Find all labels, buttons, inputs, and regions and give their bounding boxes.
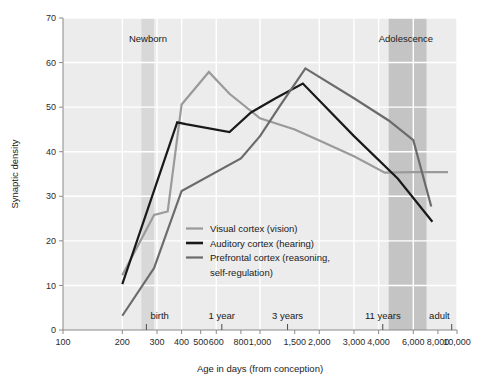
y-tick-label-70: 70 (46, 13, 56, 23)
bottom-annotation-11-years: 11 years (365, 310, 401, 321)
x-tick-label-3000: 3,000 (343, 337, 366, 347)
top-annotation-newborn: Newborn (129, 33, 167, 44)
x-tick-label-2000: 2,000 (308, 337, 331, 347)
x-tick-label-200: 200 (115, 337, 130, 347)
chart-svg: 0102030405060701002003004005006008001,00… (0, 0, 481, 388)
x-tick-label-1000: 1,000 (249, 337, 272, 347)
y-tick-label-30: 30 (46, 191, 56, 201)
chart-figure: 0102030405060701002003004005006008001,00… (0, 0, 481, 388)
x-tick-label-4000: 4,000 (367, 337, 390, 347)
x-tick-label-10000: 10,000 (443, 337, 471, 347)
bottom-annotation-1-year: 1 year (209, 310, 235, 321)
y-tick-label-60: 60 (46, 58, 56, 68)
x-tick-label-300: 300 (149, 337, 164, 347)
top-annotation-adolescence: Adolescence (379, 33, 433, 44)
y-tick-label-0: 0 (51, 325, 56, 335)
x-tick-label-6000: 6,000 (402, 337, 425, 347)
bottom-annotation-adult: adult (429, 310, 450, 321)
legend-label-2: Prefrontal cortex (reasoning, (210, 252, 330, 263)
legend-label-1: Auditory cortex (hearing) (210, 238, 314, 249)
x-tick-label-800: 800 (233, 337, 248, 347)
y-axis-title: Synaptic density (9, 139, 20, 208)
y-tick-label-10: 10 (46, 281, 56, 291)
bottom-annotation-birth: birth (150, 310, 168, 321)
x-tick-label-600: 600 (209, 337, 224, 347)
x-tick-label-400: 400 (174, 337, 189, 347)
legend-label-3: self-regulation) (210, 267, 273, 278)
x-tick-label-500: 500 (193, 337, 208, 347)
y-tick-label-20: 20 (46, 236, 56, 246)
x-tick-label-100: 100 (55, 337, 70, 347)
y-tick-label-40: 40 (46, 147, 56, 157)
x-axis-title: Age in days (from conception) (197, 363, 323, 374)
x-tick-label-1500: 1,500 (283, 337, 306, 347)
legend-label-0: Visual cortex (vision) (210, 223, 297, 234)
bottom-annotation-3-years: 3 years (272, 310, 303, 321)
y-tick-label-50: 50 (46, 102, 56, 112)
